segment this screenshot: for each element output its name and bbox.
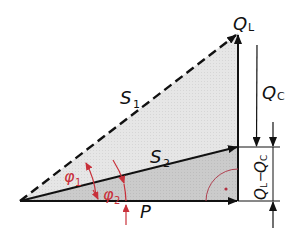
right-angle-dot — [224, 187, 227, 190]
svg-text:S: S — [150, 146, 161, 167]
svg-text:2: 2 — [163, 157, 170, 170]
svg-text:Q: Q — [233, 13, 247, 34]
svg-text:L: L — [259, 183, 269, 188]
svg-text:S: S — [120, 87, 131, 108]
power-triangle-diagram: S 1 S 2 Q L Q C P φ 1 φ 2 Q L − Q C — [0, 0, 302, 240]
svg-text:Q: Q — [252, 161, 270, 173]
label-s1: S 1 — [120, 87, 140, 111]
svg-text:Q: Q — [252, 188, 270, 200]
svg-text:C: C — [259, 155, 269, 161]
svg-text:L: L — [248, 21, 255, 34]
svg-text:P: P — [140, 201, 151, 222]
label-ql: Q L — [233, 13, 255, 34]
qc-dimension-line — [257, 45, 258, 146]
svg-text:1: 1 — [75, 177, 81, 188]
svg-text:1: 1 — [133, 98, 140, 111]
svg-text:φ: φ — [64, 167, 75, 186]
svg-text:φ: φ — [103, 185, 114, 204]
svg-text:C: C — [277, 90, 285, 103]
label-qc: Q C — [262, 82, 285, 103]
svg-text:2: 2 — [114, 195, 120, 206]
svg-text:Q: Q — [262, 82, 276, 103]
label-p: P — [140, 201, 151, 222]
label-ql-minus-qc: Q L − Q C — [252, 155, 270, 200]
